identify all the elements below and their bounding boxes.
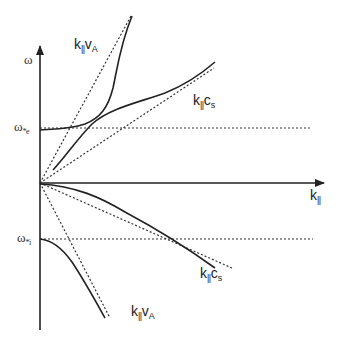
omega-star-i-label: ω*i — [17, 231, 31, 247]
k-parallel-axis-label: k|| — [310, 188, 321, 205]
star-e-subscript: *e — [23, 127, 30, 136]
lower-alfven-branch — [40, 239, 105, 318]
omega-symbol: ω — [14, 119, 23, 134]
omega-symbol: ω — [24, 52, 33, 67]
lower-alfven-label: k||vA — [131, 304, 154, 321]
upper-sound-asymptote — [40, 68, 214, 183]
s-subscript: s — [211, 100, 215, 110]
v-symbol: v — [142, 303, 149, 319]
k-symbol: k — [74, 36, 81, 52]
a-subscript: A — [149, 311, 155, 321]
omega-star-e-label: ω*e — [14, 120, 29, 136]
lower-sound-asymptote — [40, 183, 232, 268]
parallel-subscript: || — [317, 195, 321, 205]
lower-sound-label: k||cs — [200, 266, 222, 283]
k-symbol: k — [310, 187, 317, 203]
star-i-subscript: *i — [26, 238, 31, 247]
upper-alfven-branch — [40, 16, 132, 130]
upper-sound-branch — [53, 62, 215, 170]
c-symbol: c — [211, 265, 218, 281]
k-symbol: k — [193, 92, 200, 108]
c-symbol: c — [204, 92, 211, 108]
upper-sound-label: k||cs — [193, 93, 215, 110]
omega-axis-label: ω — [24, 53, 33, 66]
a-subscript: A — [92, 44, 98, 54]
k-symbol: k — [200, 265, 207, 281]
omega-symbol: ω — [17, 230, 26, 245]
v-symbol: v — [85, 36, 92, 52]
s-subscript: s — [218, 273, 222, 283]
upper-alfven-label: k||vA — [74, 37, 97, 54]
lower-alfven-asymptote — [40, 183, 110, 318]
k-symbol: k — [131, 303, 138, 319]
dispersion-diagram — [0, 0, 339, 342]
